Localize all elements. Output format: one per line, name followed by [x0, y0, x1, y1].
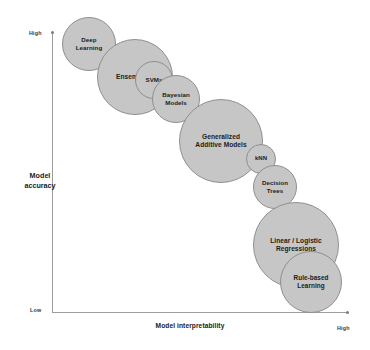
bubble-label: Deep Learning	[74, 36, 105, 51]
bubble-label: Generalized Additive Models	[193, 133, 248, 149]
y-axis-title: Model accuracy	[14, 171, 66, 191]
bubble-point: Rule-based Learning	[280, 251, 342, 313]
bubble-label: Bayesian Models	[160, 91, 192, 106]
x-axis-high-label: High	[337, 325, 350, 331]
x-axis-arrow-icon	[346, 311, 349, 314]
y-axis-arrow-icon	[51, 31, 54, 34]
x-axis-title: Model interpretability	[100, 322, 280, 329]
chart-canvas: High Low Model accuracy High Model inter…	[0, 0, 370, 350]
y-axis-low-label: Low	[30, 307, 41, 313]
y-axis-high-label: High	[29, 30, 42, 36]
bubble-label: Rule-based Learning	[292, 274, 331, 290]
bubble-label: kNN	[253, 155, 269, 162]
bubble-label: Decision Trees	[260, 179, 290, 194]
